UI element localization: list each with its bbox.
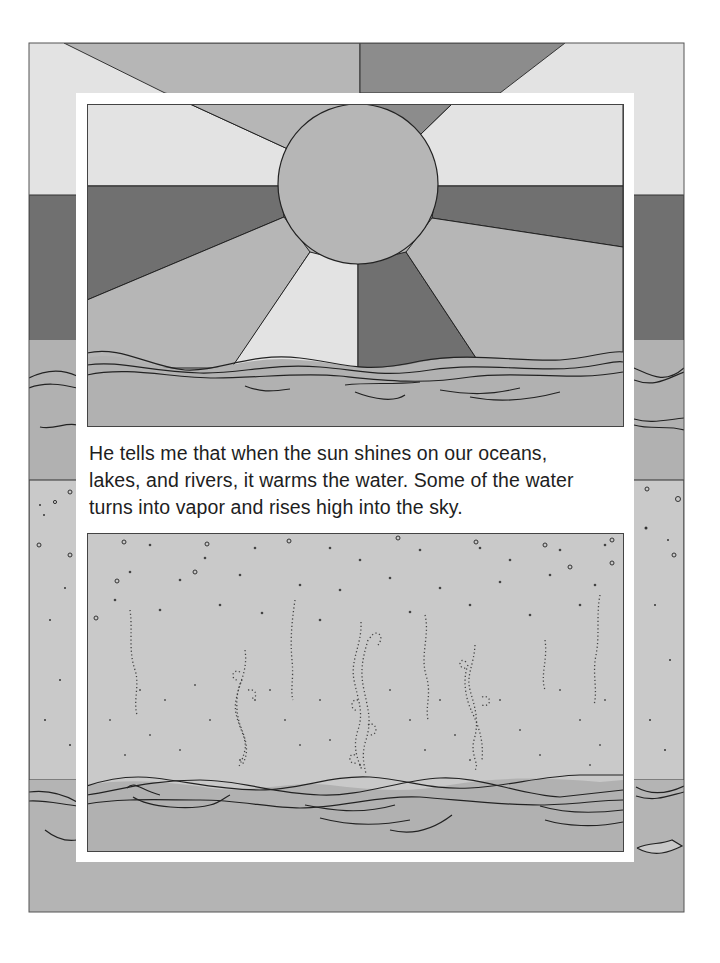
- caption-line-1: He tells me that when the sun shines on …: [89, 440, 629, 467]
- sun-over-ocean-illustration: [87, 104, 624, 427]
- water-vapor-illustration: [87, 533, 624, 852]
- sun: [278, 104, 438, 264]
- caption-line-3: turns into vapor and rises high into the…: [89, 494, 629, 521]
- story-caption: He tells me that when the sun shines on …: [89, 440, 629, 521]
- caption-line-2: lakes, and rivers, it warms the water. S…: [89, 467, 629, 494]
